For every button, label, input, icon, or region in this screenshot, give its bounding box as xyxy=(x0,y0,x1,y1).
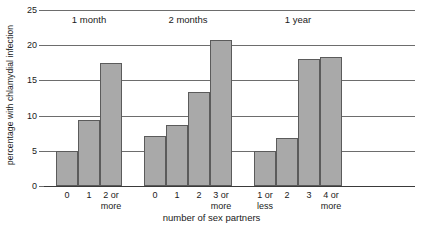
category-label: 3 xyxy=(306,190,311,201)
category-label: 2 xyxy=(284,190,289,201)
category-label-line1: 4 or xyxy=(321,190,342,201)
category-label: 4 ormore xyxy=(321,190,342,211)
category-label-line1: 3 xyxy=(306,190,311,201)
bar xyxy=(276,138,298,186)
y-tick-label-25: 25 xyxy=(27,5,37,15)
bar xyxy=(210,40,232,186)
gridline-25 xyxy=(44,10,415,11)
y-tick-label-5: 5 xyxy=(32,146,37,156)
bar xyxy=(298,59,320,186)
y-tick-label-15: 15 xyxy=(27,75,37,85)
bar xyxy=(144,136,166,186)
y-tick-label-20: 20 xyxy=(27,40,37,50)
x-axis-title: number of sex partners xyxy=(0,212,423,223)
category-label-line1: 1 xyxy=(86,190,91,201)
x-axis-title-text: number of sex partners xyxy=(163,212,261,223)
y-tick-20 xyxy=(39,45,44,46)
category-label: 1 xyxy=(86,190,91,201)
category-label: 1 xyxy=(174,190,179,201)
group-heading: 2 months xyxy=(168,14,207,25)
category-label: 0 xyxy=(152,190,157,201)
category-label-line1: 2 or xyxy=(101,190,122,201)
category-label-line1: 0 xyxy=(64,190,69,201)
group-heading: 1 year xyxy=(285,14,311,25)
bar xyxy=(56,151,78,186)
category-label-line1: 2 xyxy=(196,190,201,201)
category-label-line1: 1 xyxy=(174,190,179,201)
y-tick-10 xyxy=(39,116,44,117)
bar xyxy=(254,151,276,186)
category-label-line2: more xyxy=(101,201,122,212)
category-label: 2 xyxy=(196,190,201,201)
category-label-line1: 2 xyxy=(284,190,289,201)
gridline-0 xyxy=(44,186,415,187)
bar xyxy=(188,92,210,186)
category-label-line1: 3 or xyxy=(211,190,232,201)
category-label: 1 orless xyxy=(257,190,273,211)
category-label-line2: more xyxy=(321,201,342,212)
y-tick-15 xyxy=(39,80,44,81)
category-label: 0 xyxy=(64,190,69,201)
category-label-line2: more xyxy=(211,201,232,212)
category-label: 2 ormore xyxy=(101,190,122,211)
category-label-line1: 1 or xyxy=(257,190,273,201)
y-tick-25 xyxy=(39,10,44,11)
category-label-line2: less xyxy=(257,201,273,212)
plot-area: 0510152025 xyxy=(44,10,415,186)
group-heading: 1 month xyxy=(72,14,106,25)
y-tick-5 xyxy=(39,151,44,152)
bar-chart: percentage with chlamydial infection 051… xyxy=(0,0,423,225)
bar xyxy=(78,120,100,186)
bar xyxy=(320,57,342,186)
category-label: 3 ormore xyxy=(211,190,232,211)
bar xyxy=(166,125,188,186)
category-label-line1: 0 xyxy=(152,190,157,201)
bar xyxy=(100,63,122,186)
y-tick-0 xyxy=(39,186,44,187)
y-tick-label-0: 0 xyxy=(32,181,37,191)
y-tick-label-10: 10 xyxy=(27,111,37,121)
y-axis-title: percentage with chlamydial infection xyxy=(0,0,20,190)
y-axis-title-text: percentage with chlamydial infection xyxy=(5,25,15,165)
